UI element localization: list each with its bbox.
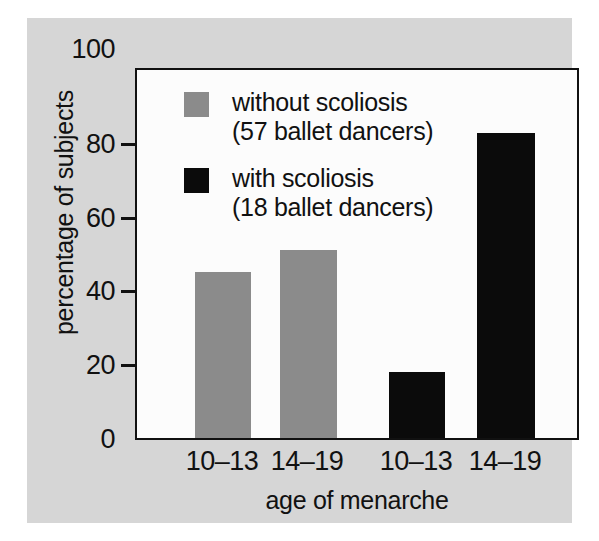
legend-label-line1: with scoliosis [232, 164, 464, 193]
y-tick-label-80: 80 [86, 129, 115, 159]
legend-swatch-icon [184, 168, 209, 193]
y-tick-mark [121, 290, 135, 293]
bar-with-scoliosis-10-13 [389, 372, 445, 438]
y-axis: 100 80 60 40 20 0 [27, 18, 135, 440]
legend: without scoliosis (57 ballet dancers) wi… [184, 88, 464, 240]
y-tick-mark [121, 143, 135, 146]
legend-swatch-icon [184, 92, 209, 117]
y-tick-label-20: 20 [86, 350, 115, 380]
y-tick-mark [121, 217, 135, 220]
bar-without-scoliosis-10-13 [195, 272, 251, 438]
x-tick-label-0: 10–13 [177, 446, 267, 477]
x-tick-label-2: 10–13 [371, 446, 461, 477]
bar-with-scoliosis-14-19 [477, 133, 535, 438]
legend-label-line2: (18 ballet dancers) [232, 193, 464, 222]
figure-root: 100 80 60 40 20 0 p [0, 0, 599, 541]
bar-without-scoliosis-14-19 [280, 250, 337, 438]
y-axis-title: percentage of subjects [50, 58, 79, 368]
y-tick-label-40: 40 [86, 276, 115, 306]
y-tick-label-0: 0 [100, 424, 115, 454]
y-tick-mark [121, 364, 135, 367]
y-tick-label-60: 60 [86, 203, 115, 233]
x-tick-label-1: 14–19 [262, 446, 352, 477]
legend-entry-with-scoliosis: with scoliosis (18 ballet dancers) [184, 164, 464, 222]
legend-label-line2: (57 ballet dancers) [232, 117, 464, 146]
x-axis: 10–13 14–19 10–13 14–19 [135, 446, 579, 482]
x-tick-label-3: 14–19 [460, 446, 550, 477]
x-axis-title: age of menarche [135, 486, 579, 515]
legend-entry-without-scoliosis: without scoliosis (57 ballet dancers) [184, 88, 464, 146]
plot-area: without scoliosis (57 ballet dancers) wi… [135, 68, 579, 440]
figure-panel: 100 80 60 40 20 0 p [27, 18, 572, 523]
legend-label-line1: without scoliosis [232, 88, 464, 117]
